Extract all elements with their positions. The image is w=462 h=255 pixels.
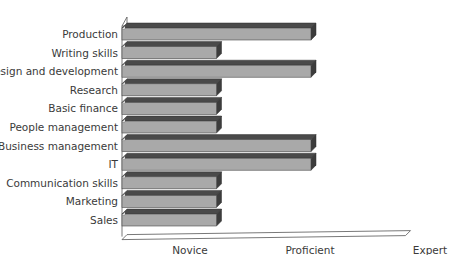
- category-label: Basic finance: [48, 102, 118, 114]
- bar: [122, 79, 222, 96]
- bar: [122, 97, 222, 114]
- skills-bar-chart: ProductionWriting skillsDesign and devel…: [0, 0, 462, 255]
- category-label: Writing skills: [51, 47, 118, 59]
- category-label: Marketing: [66, 195, 118, 207]
- category-label: People management: [9, 121, 118, 133]
- bar: [122, 153, 316, 170]
- bar: [122, 135, 316, 152]
- x-tick-label: Expert: [413, 244, 447, 255]
- x-tick-labels: NoviceProficientExpert: [172, 244, 447, 255]
- x-tick-label: Novice: [172, 244, 208, 255]
- bar: [122, 209, 222, 226]
- bar: [122, 60, 316, 77]
- category-label: Research: [70, 84, 118, 96]
- category-label: Business management: [0, 140, 118, 152]
- bar: [122, 23, 316, 40]
- category-labels: ProductionWriting skillsDesign and devel…: [0, 28, 119, 226]
- category-label: IT: [108, 158, 118, 170]
- bar: [122, 116, 222, 133]
- bars-group: [122, 23, 316, 226]
- bar: [122, 172, 222, 189]
- category-label: Sales: [90, 214, 118, 226]
- bar: [122, 190, 222, 207]
- x-tick-label: Proficient: [285, 244, 334, 255]
- category-label: Production: [62, 28, 118, 40]
- x-axis-floor: [122, 231, 411, 240]
- floor-plane: [122, 231, 411, 240]
- category-label: Design and development: [0, 65, 118, 77]
- bar: [122, 42, 222, 59]
- category-label: Communication skills: [6, 177, 118, 189]
